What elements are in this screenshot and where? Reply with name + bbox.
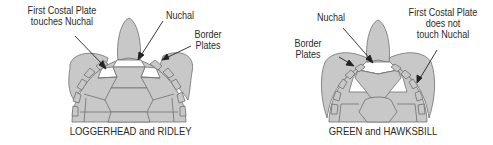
- first-costal-plate-label: First Costal Plate does not touch Nuchal: [404, 7, 481, 40]
- nuchal-label: Nuchal: [314, 12, 348, 23]
- label-line: Plates: [291, 49, 325, 60]
- nuchal-label: Nuchal: [163, 10, 197, 21]
- border-plates-label: Border Plates: [291, 38, 325, 60]
- label-line: touch Nuchal: [404, 29, 481, 40]
- loggerhead-ridley-diagram: First Costal Plate touches Nuchal Nuchal…: [0, 0, 250, 145]
- border-plates-label: Border Plates: [191, 29, 225, 51]
- label-line: Plates: [191, 40, 225, 51]
- first-costal-plate-label: First Costal Plate touches Nuchal: [28, 5, 97, 27]
- loggerhead-caption: LOGGERHEAD and RIDLEY: [70, 125, 189, 137]
- label-line: touches Nuchal: [28, 16, 97, 27]
- green-caption: GREEN and HAWKSBILL: [328, 125, 438, 137]
- green-hawksbill-diagram: Nuchal Border Plates First Costal Plate …: [243, 0, 493, 145]
